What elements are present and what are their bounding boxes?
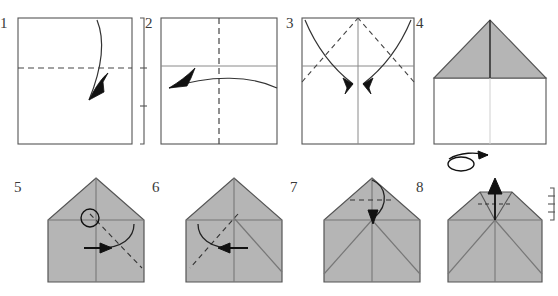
step-panel-6: 6 xyxy=(172,176,297,288)
step-3-figure xyxy=(298,16,420,148)
bracket-outline xyxy=(140,18,144,144)
step-6-figure xyxy=(172,176,297,288)
step-number-2: 2 xyxy=(145,16,153,31)
origami-instruction-sheet: 1 2 xyxy=(0,0,558,296)
step-panel-2: 2 xyxy=(157,16,287,148)
turn-over-symbol xyxy=(448,151,488,171)
step-panel-3: 3 xyxy=(298,16,420,148)
step-number-4: 4 xyxy=(416,16,424,31)
step-5-figure xyxy=(34,176,159,288)
step-panel-1: 1 xyxy=(14,16,154,148)
step-4-figure xyxy=(430,16,555,176)
step-number-6: 6 xyxy=(152,180,160,195)
step-panel-5: 5 xyxy=(34,176,159,288)
step-8-figure xyxy=(438,176,556,288)
step-panel-8: 8 xyxy=(438,176,556,288)
step-number-8: 8 xyxy=(416,180,424,195)
turn-over-loop xyxy=(448,157,474,171)
step-number-5: 5 xyxy=(14,180,22,195)
proportion-bracket-right xyxy=(140,18,147,144)
paper-square xyxy=(18,18,132,144)
step-2-figure xyxy=(157,16,287,148)
step-number-1: 1 xyxy=(0,16,8,31)
step-number-7: 7 xyxy=(290,180,298,195)
proportion-bracket-right xyxy=(548,188,555,220)
fold-tip-up-arrow-head xyxy=(488,178,502,194)
step-panel-4: 4 xyxy=(430,16,555,176)
turn-over-arrow-head xyxy=(478,151,488,159)
step-number-3: 3 xyxy=(286,16,294,31)
step-1-figure xyxy=(14,16,154,148)
